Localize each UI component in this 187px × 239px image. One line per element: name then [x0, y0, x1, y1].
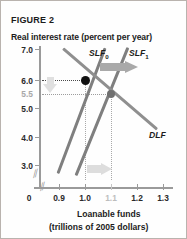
x-tick-0-9: [59, 184, 60, 190]
curve-label-dlf-text: DLF: [149, 130, 166, 140]
figure-label: FIGURE 2: [11, 15, 54, 25]
y-axis-line: [39, 46, 41, 188]
curve-label-slf0: SLF0: [89, 48, 109, 60]
x-tick-1-1: [111, 184, 112, 190]
curve-label-slf1: SLF1: [129, 48, 149, 60]
y-tick-label-4: 4.0: [11, 133, 33, 143]
supply-shift-arrow-shaft: [100, 63, 127, 71]
y-tick-label-5: 5.0: [11, 104, 33, 114]
y-tick-label-5-5: 5.5: [11, 89, 33, 99]
x-tick-label-1-3: 1.3: [152, 193, 174, 203]
x-axis-title-line2: (trillions of 2005 dollars): [49, 222, 148, 232]
supply-shift-arrow: [100, 60, 139, 73]
x-tick-label-1-2: 1.2: [126, 193, 148, 203]
y-tick-4: [35, 137, 41, 138]
equilibrium-point-new: [107, 90, 115, 98]
x-tick-1-2: [137, 184, 138, 190]
x-tick-label-0: 0: [18, 193, 40, 203]
x-axis-line: [34, 187, 173, 189]
interest-rate-fall-arrow: [43, 77, 57, 95]
y-tick-3: [35, 165, 41, 166]
quantity-increase-arrow-head: [101, 163, 112, 175]
figure-container: FIGURE 2 Real interest rate (percent per…: [0, 0, 187, 239]
y-tick-label-3: 3.0: [11, 161, 33, 171]
y-tick-label-7: 7.0: [11, 45, 33, 55]
curve-label-slf1-subscript: 1: [145, 53, 148, 60]
curve-label-slf1-text: SLF: [129, 48, 145, 58]
x-tick-label-1-1: 1.1: [100, 193, 122, 203]
y-tick-5: [35, 108, 41, 109]
x-tick-label-1-0: 1.0: [74, 193, 96, 203]
x-axis-break-icon: ⁄⁄: [39, 181, 46, 193]
quantity-increase-arrow: [87, 162, 113, 175]
x-tick-1-3: [163, 184, 164, 190]
curve-label-slf0-subscript: 0: [105, 53, 108, 60]
equilibrium-point-initial: [81, 76, 90, 85]
interest-rate-fall-arrow-head: [43, 84, 57, 93]
y-tick-6: [35, 80, 41, 81]
supply-shift-arrow-head: [125, 61, 138, 73]
x-tick-label-0-9: 0.9: [48, 193, 70, 203]
y-tick-label-6: 6.0: [11, 76, 33, 86]
x-tick-1-0: [85, 184, 86, 190]
curve-label-slf0-text: SLF: [89, 48, 105, 58]
x-axis-title-line1: Loanable funds: [77, 209, 141, 219]
y-tick-7: [35, 49, 41, 50]
curve-label-dlf: DLF: [149, 130, 166, 140]
y-axis-title: Real interest rate (percent per year): [11, 32, 152, 42]
